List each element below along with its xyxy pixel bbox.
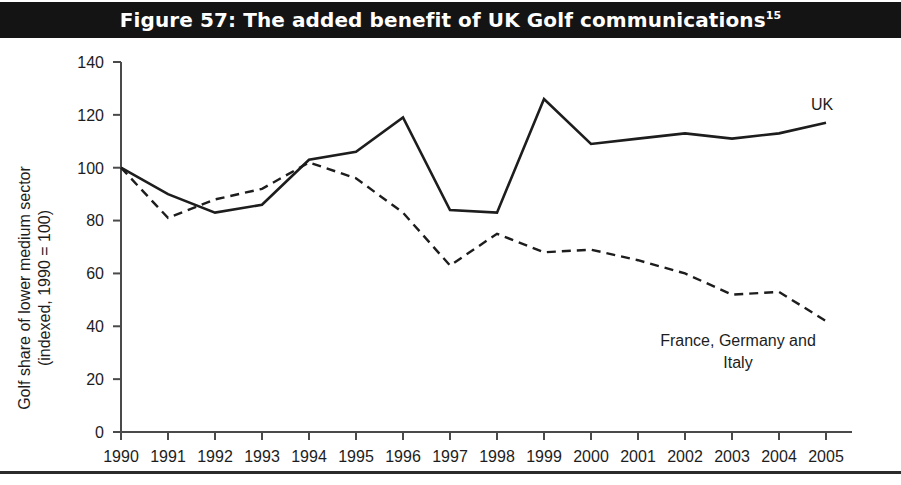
- x-tick-label-1990: 1990: [103, 448, 139, 465]
- series-label-france-germany-italy-line1: France, Germany and: [660, 332, 816, 349]
- line-chart: Golf share of lower medium sector (index…: [0, 38, 901, 466]
- series-line-uk: [121, 99, 826, 213]
- y-tick-label-60: 60: [86, 265, 104, 282]
- y-tick-label-140: 140: [77, 54, 104, 71]
- figure-title-footnote-marker: 15: [766, 9, 782, 22]
- y-axis-label-line1: Golf share of lower medium sector: [16, 166, 33, 410]
- x-tick-label-1992: 1992: [197, 448, 233, 465]
- y-tick-label-0: 0: [95, 424, 104, 441]
- y-tick-label-20: 20: [86, 371, 104, 388]
- y-axis-label: Golf share of lower medium sector (index…: [16, 166, 53, 410]
- x-tick-label-1994: 1994: [291, 448, 327, 465]
- x-tick-label-2003: 2003: [714, 448, 750, 465]
- y-tick-label-100: 100: [77, 160, 104, 177]
- x-tick-label-2002: 2002: [667, 448, 703, 465]
- x-tick-label-2001: 2001: [620, 448, 656, 465]
- x-tick-label-2004: 2004: [761, 448, 797, 465]
- chart-series-group: [121, 99, 826, 321]
- figure-chart-area: Golf share of lower medium sector (index…: [0, 38, 901, 466]
- y-tick-label-40: 40: [86, 318, 104, 335]
- x-tick-label-1996: 1996: [385, 448, 421, 465]
- chart-axes: [113, 62, 852, 440]
- x-axis-tick-labels: 1990199119921993199419951996199719981999…: [103, 448, 844, 465]
- y-axis-label-line2: (indexed, 1990 = 100): [36, 210, 53, 366]
- y-tick-label-80: 80: [86, 212, 104, 229]
- series-line-france-germany-and-italy: [121, 162, 826, 321]
- x-tick-label-1995: 1995: [338, 448, 374, 465]
- x-tick-label-1998: 1998: [479, 448, 515, 465]
- figure-title-banner: Figure 57: The added benefit of UK Golf …: [0, 2, 901, 38]
- x-tick-label-1999: 1999: [526, 448, 562, 465]
- y-tick-label-120: 120: [77, 107, 104, 124]
- x-tick-label-1991: 1991: [150, 448, 186, 465]
- x-tick-label-1993: 1993: [244, 448, 280, 465]
- x-tick-label-2005: 2005: [808, 448, 844, 465]
- y-axis-tick-labels: 140 120 100 80 60 40 20 0: [77, 54, 104, 441]
- figure-title: Figure 57: The added benefit of UK Golf …: [120, 8, 781, 32]
- series-label-uk: UK: [811, 96, 834, 113]
- x-tick-label-2000: 2000: [573, 448, 609, 465]
- series-label-france-germany-italy-line2: Italy: [723, 354, 752, 371]
- footer-divider: [0, 471, 901, 474]
- figure-title-text: Figure 57: The added benefit of UK Golf …: [120, 8, 766, 32]
- x-tick-label-1997: 1997: [432, 448, 468, 465]
